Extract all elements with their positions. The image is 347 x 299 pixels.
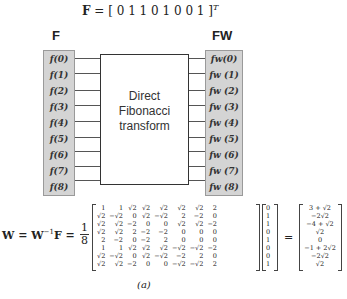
input-wire bbox=[75, 73, 100, 74]
matrix-cell: −√2 bbox=[170, 244, 188, 252]
left-cell: f(7) bbox=[44, 166, 74, 176]
matrix-cell: −2 bbox=[107, 236, 125, 244]
matrix-cell: 0 bbox=[205, 236, 219, 244]
matrix-cell: −2 bbox=[125, 260, 139, 268]
equation-lhs-text: W = W bbox=[2, 229, 44, 242]
result-cell: −4 + √2 bbox=[301, 220, 339, 228]
formula-values: 0 1 1 0 1 0 0 1 bbox=[117, 4, 205, 18]
matrix-cell: 2 bbox=[205, 260, 219, 268]
matrix-cell: 0 bbox=[205, 252, 219, 260]
matrix-cell: √2 bbox=[139, 212, 153, 220]
transform-label-line: transform bbox=[101, 119, 188, 134]
figure-caption: (a) bbox=[137, 279, 151, 290]
matrix-cell: √2 bbox=[152, 244, 170, 252]
matrix-cell: 0 bbox=[188, 228, 206, 236]
matrix-cell: 0 bbox=[152, 260, 170, 268]
matrix-cell: −2 bbox=[205, 244, 219, 252]
left-signal-column: f(0) f(1) f(2) f(3) f(4) f(5) f(6) f(7) … bbox=[43, 50, 75, 196]
left-column-label: F bbox=[52, 28, 60, 43]
right-cell: fw (8) bbox=[206, 182, 242, 192]
result-cell: −2√2 bbox=[301, 212, 339, 220]
matrix-cell: √2 bbox=[95, 220, 107, 228]
output-wire bbox=[188, 105, 205, 106]
matrix-row: √2−√20√2−√22−20 bbox=[95, 212, 219, 220]
vector-cell: 1 bbox=[264, 236, 272, 244]
matrix-cell: −2 bbox=[205, 220, 219, 228]
matrix-cell: √2 bbox=[139, 252, 153, 260]
top-formula: F = [ 0 1 1 0 1 0 0 1 ]T bbox=[82, 3, 218, 18]
matrix-cell: −2 bbox=[170, 252, 188, 260]
matrix-cell: √2 bbox=[107, 260, 125, 268]
fraction-denominator: 8 bbox=[80, 235, 89, 247]
output-wire bbox=[188, 90, 205, 91]
matrix-row: 11√2√2√2−√2−√2−2 bbox=[95, 244, 219, 252]
matrix-right-bracket bbox=[256, 204, 260, 271]
left-cell: f(5) bbox=[44, 134, 74, 144]
matrix-cell: −2 bbox=[125, 220, 139, 228]
matrix-cell: √2 bbox=[107, 228, 125, 236]
matrix-cell: 2 bbox=[125, 228, 139, 236]
matrix-cell: 0 bbox=[139, 260, 153, 268]
matrix-cell: 2 bbox=[95, 236, 107, 244]
result-cell: √2 bbox=[301, 228, 339, 236]
matrix-cell: √2 bbox=[170, 220, 188, 228]
matrix-cell: −2 bbox=[139, 236, 153, 244]
matrix-cell: −2 bbox=[139, 228, 153, 236]
matrix-cell: 0 bbox=[125, 212, 139, 220]
input-vector-right-bracket bbox=[274, 204, 278, 271]
matrix-row: 11√2√2√2√2√22 bbox=[95, 204, 219, 212]
formula-lhs: F bbox=[82, 4, 91, 18]
matrix-cell: 0 bbox=[125, 252, 139, 260]
output-wire bbox=[188, 121, 205, 122]
result-vector: 3 + √2 −2√2 −4 + √2 √2 0 −1 + 2√2 −2√2 √… bbox=[301, 204, 339, 268]
input-wire bbox=[75, 105, 100, 106]
formula-close: ] bbox=[205, 4, 214, 18]
transform-label: Direct Fibonacci transform bbox=[101, 89, 188, 134]
matrix-cell: −√2 bbox=[188, 260, 206, 268]
result-cell: −1 + 2√2 bbox=[301, 244, 339, 252]
left-cell: f(6) bbox=[44, 150, 74, 160]
right-cell: fw (1) bbox=[206, 70, 242, 80]
matrix-cell: √2 bbox=[188, 204, 206, 212]
output-wire bbox=[188, 166, 205, 167]
left-cell: f(8) bbox=[44, 182, 74, 192]
matrix-cell: √2 bbox=[95, 260, 107, 268]
right-cell: fw (4) bbox=[206, 118, 242, 128]
output-wire bbox=[188, 58, 205, 59]
right-cell: fw (5) bbox=[206, 134, 242, 144]
matrix-cell: √2 bbox=[139, 204, 153, 212]
output-wire bbox=[188, 137, 205, 138]
output-wire bbox=[188, 180, 205, 181]
matrix-cell: −√2 bbox=[188, 244, 206, 252]
left-cell: f(1) bbox=[44, 70, 74, 80]
matrix-cell: 0 bbox=[205, 212, 219, 220]
formula-eq: = [ bbox=[91, 4, 117, 18]
matrix-cell: 0 bbox=[170, 236, 188, 244]
input-wire bbox=[75, 151, 100, 152]
matrix-row: 2−20−22000 bbox=[95, 236, 219, 244]
matrix-row: √2−√20√2−√2−220 bbox=[95, 252, 219, 260]
matrix-cell: √2 bbox=[95, 228, 107, 236]
matrix-cell: √2 bbox=[125, 244, 139, 252]
right-cell: fw (6) bbox=[206, 150, 242, 160]
result-cell: √2 bbox=[301, 260, 339, 268]
vector-cell: 1 bbox=[264, 260, 272, 268]
matrix-cell: 0 bbox=[152, 220, 170, 228]
matrix-cell: 1 bbox=[95, 244, 107, 252]
vector-cell: 0 bbox=[264, 204, 272, 212]
result-cell: 3 + √2 bbox=[301, 204, 339, 212]
transform-label-line: Direct bbox=[101, 89, 188, 104]
matrix-cell: −√2 bbox=[152, 212, 170, 220]
result-cell: 0 bbox=[301, 236, 339, 244]
matrix-row: √2√22−2−2000 bbox=[95, 228, 219, 236]
matrix-cell: 1 bbox=[95, 204, 107, 212]
matrix-cell: √2 bbox=[107, 220, 125, 228]
vector-cell: 1 bbox=[264, 212, 272, 220]
input-wire bbox=[75, 121, 100, 122]
matrix-cell: −√2 bbox=[107, 252, 125, 260]
matrix-cell: 2 bbox=[170, 212, 188, 220]
output-wire bbox=[188, 151, 205, 152]
matrix-cell: 0 bbox=[139, 220, 153, 228]
transform-label-line: Fibonacci bbox=[101, 104, 188, 119]
matrix-cell: √2 bbox=[152, 204, 170, 212]
